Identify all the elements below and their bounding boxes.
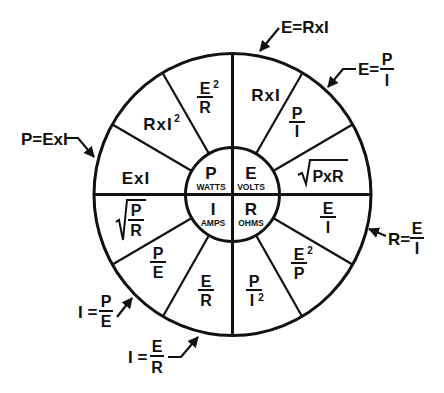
svg-text:R=: R= (388, 230, 410, 249)
svg-text:2: 2 (258, 292, 264, 303)
arrow-icon (117, 298, 132, 317)
svg-text:PxR: PxR (312, 168, 344, 185)
svg-text:P: P (249, 273, 260, 290)
svg-text:E: E (201, 273, 212, 290)
segment-r-e-over-i: E I (320, 200, 336, 236)
arrow-icon (168, 337, 198, 357)
svg-text:E: E (412, 220, 423, 237)
center-quadrant-e: E VOLTS (237, 164, 265, 192)
segment-e-p-over-i: P I (289, 105, 305, 140)
svg-text:I: I (385, 72, 389, 89)
segment-i-p-over-e: P E (150, 245, 166, 281)
center-quadrant-p: P WATTS (196, 164, 225, 192)
svg-text:E: E (101, 313, 112, 330)
callout-i-equals-p-over-e: I = P E (78, 293, 132, 330)
arrow-icon (328, 69, 356, 87)
svg-text:I: I (250, 292, 254, 309)
callout-i-equals-e-over-r: I = E R (128, 337, 198, 376)
svg-text:R: R (130, 222, 142, 239)
segment-p-exi: ExI (122, 169, 151, 188)
svg-text:I: I (326, 219, 330, 236)
svg-text:E=RxI: E=RxI (281, 18, 329, 37)
svg-text:I: I (415, 240, 419, 257)
svg-text:E: E (152, 338, 163, 355)
center-quadrant-r: R OHMS (238, 200, 264, 228)
svg-text:E: E (153, 264, 164, 281)
svg-text:R: R (199, 99, 211, 116)
segment-e-sqrt-pxr: PxR (298, 160, 348, 185)
svg-text:P: P (131, 202, 142, 219)
callout-r-equals-e-over-i: R= E I (369, 220, 424, 257)
arrow-icon (369, 229, 386, 236)
unit-amps: AMPS (201, 218, 226, 228)
svg-text:P: P (153, 245, 164, 262)
segment-r-p-over-i2: P I 2 (246, 273, 264, 309)
segment-i-sqrt-p-over-r: P R (116, 200, 146, 240)
svg-text:RxI: RxI (143, 115, 172, 134)
svg-text:P: P (294, 265, 305, 282)
arrow-icon (260, 28, 279, 51)
svg-text:R: R (151, 359, 163, 376)
svg-text:P: P (292, 105, 303, 122)
symbol-e: E (245, 164, 256, 183)
svg-text:E=: E= (358, 60, 379, 79)
svg-text:2: 2 (213, 79, 219, 90)
symbol-i: I (211, 200, 216, 219)
svg-text:I: I (295, 123, 299, 140)
svg-text:P=ExI: P=ExI (21, 130, 68, 149)
arrow-icon (65, 138, 94, 157)
svg-text:I =: I = (128, 348, 147, 367)
svg-text:E: E (323, 200, 334, 217)
svg-text:ExI: ExI (122, 169, 151, 188)
callout-e-equals-p-over-i: E= P I (328, 51, 394, 89)
callout-e-equals-rxi: E=RxI (260, 18, 329, 51)
unit-volts: VOLTS (237, 182, 265, 192)
svg-text:2: 2 (174, 113, 180, 124)
svg-text:P: P (101, 293, 112, 310)
center-quadrant-i: I AMPS (201, 200, 226, 228)
svg-text:P: P (382, 51, 393, 68)
svg-text:E: E (294, 246, 305, 263)
svg-text:R: R (200, 292, 212, 309)
segment-p-rxi2: RxI 2 (143, 113, 180, 134)
svg-text:E: E (200, 80, 211, 97)
segment-i-e-over-r: E R (198, 273, 214, 309)
unit-watts: WATTS (196, 182, 225, 192)
segment-p-e2-over-r: E 2 R (197, 79, 219, 116)
callout-p-equals-exi: P=ExI (21, 130, 94, 157)
svg-text:RxI: RxI (251, 86, 280, 105)
segment-e-rxi: RxI (251, 86, 280, 105)
symbol-p: P (205, 164, 216, 183)
svg-text:I =: I = (78, 303, 97, 322)
svg-text:2: 2 (307, 245, 313, 256)
segment-r-e2-over-p: E 2 P (291, 245, 313, 282)
symbol-r: R (245, 200, 257, 219)
ohms-law-wheel: P WATTS E VOLTS I AMPS R OHMS RxI P I Px… (0, 0, 444, 393)
unit-ohms: OHMS (238, 218, 264, 228)
